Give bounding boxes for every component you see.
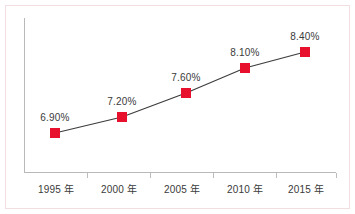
- x-axis-label-2010: 2010 年: [227, 183, 263, 195]
- data-point-marker[interactable]: [300, 47, 310, 57]
- data-point-marker[interactable]: [50, 128, 60, 138]
- x-axis-label-1995: 1995 年: [38, 183, 74, 195]
- data-label: 8.10%: [230, 47, 259, 58]
- chart-container: 6.90% 7.20% 7.60% 8.10% 8.40% 1995 年 200…: [0, 0, 355, 214]
- x-axis-label-2005: 2005 年: [164, 183, 200, 195]
- data-label: 7.20%: [107, 96, 136, 107]
- data-point-marker[interactable]: [117, 112, 127, 122]
- data-label: 6.90%: [40, 112, 69, 123]
- series-line: [55, 52, 305, 133]
- data-point-marker[interactable]: [240, 63, 250, 73]
- x-axis-label-2000: 2000 年: [101, 183, 137, 195]
- data-label: 7.60%: [171, 72, 200, 83]
- data-label: 8.40%: [290, 31, 319, 42]
- data-point-marker[interactable]: [181, 88, 191, 98]
- x-axis-label-2015: 2015 年: [288, 183, 324, 195]
- line-chart: 6.90% 7.20% 7.60% 8.10% 8.40% 1995 年 200…: [0, 0, 355, 214]
